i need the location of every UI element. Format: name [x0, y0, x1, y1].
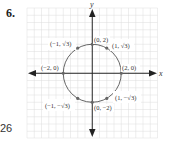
- label-0-2: (0, 2): [94, 36, 108, 44]
- label-neg2-0: (−2, 0): [41, 64, 59, 72]
- point-1-sqrt3: [105, 47, 108, 50]
- point-neg1-sqrt3: [76, 47, 79, 50]
- arrow-right-icon: [149, 70, 157, 77]
- label-0-neg2: (0, −2): [94, 104, 112, 112]
- label-neg1-neg-sqrt3: (−1, −√3): [45, 102, 70, 110]
- point-neg2-0: [62, 72, 65, 75]
- x-axis-label: x: [158, 69, 163, 78]
- point-1-neg-sqrt3: [105, 97, 108, 100]
- label-2-0: (2, 0): [122, 64, 136, 72]
- arrow-up-icon: [89, 9, 96, 17]
- point-neg1-neg-sqrt3: [76, 97, 79, 100]
- y-axis: y: [89, 0, 96, 137]
- label-neg1-sqrt3: (−1, √3): [50, 40, 71, 48]
- circle-diagram: x y (0, 2) (1, √3) (2, 0) (1, −√3) (0, −…: [0, 0, 173, 143]
- label-1-neg-sqrt3: (1, −√3): [115, 94, 136, 102]
- label-1-sqrt3: (1, √3): [112, 42, 130, 50]
- point-2-0: [120, 72, 123, 75]
- arrow-down-icon: [89, 129, 96, 137]
- arrow-left-icon: [28, 70, 36, 77]
- y-axis-label: y: [89, 0, 94, 9]
